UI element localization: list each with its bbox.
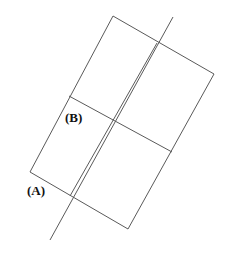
label-a: (A): [27, 184, 45, 197]
outer-parallelogram: [30, 16, 214, 229]
horizontal-divider: [69, 96, 172, 152]
label-b: (B): [65, 111, 82, 124]
geometry-figure: (A) (B): [0, 0, 231, 254]
vertical-divider: [70, 43, 157, 196]
geometry-canvas: [0, 0, 231, 254]
diagonal-transversal-line: [50, 17, 173, 240]
